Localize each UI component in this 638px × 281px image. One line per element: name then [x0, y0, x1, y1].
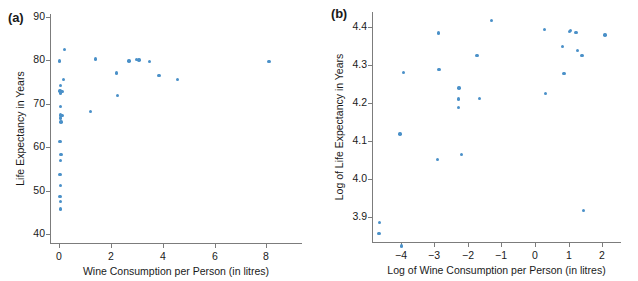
y-axis-tick [368, 141, 372, 142]
data-point [457, 86, 460, 89]
y-axis-tick [46, 234, 50, 235]
x-axis-tick [163, 244, 164, 248]
data-point [94, 57, 97, 60]
data-point [561, 45, 564, 48]
x-axis-tick-label: 4 [148, 250, 178, 262]
y-axis-line [50, 14, 51, 243]
data-point [59, 153, 62, 156]
x-axis-tick [59, 244, 60, 248]
y-axis-title: Life Expectancy in Years [14, 14, 26, 243]
x-axis-tick [468, 243, 469, 247]
x-axis-tick-label: 6 [200, 250, 230, 262]
data-point [58, 59, 61, 62]
data-point [116, 94, 119, 97]
x-axis-tick-label: 2 [587, 249, 617, 261]
data-point [437, 31, 440, 34]
y-axis-tick [368, 27, 372, 28]
x-axis-tick [266, 244, 267, 248]
data-point [148, 60, 151, 63]
y-axis-tick [46, 17, 50, 18]
x-axis-tick-label: 0 [520, 249, 550, 261]
data-point [398, 132, 401, 135]
x-axis-title: Log of Wine Consumption per Person (in l… [372, 264, 621, 276]
x-axis-tick [569, 243, 570, 247]
data-point [115, 71, 118, 74]
x-axis-tick-label: 8 [251, 250, 281, 262]
y-axis-title: Log of Life Expectancy in Years [333, 12, 345, 242]
data-point [402, 71, 405, 74]
y-axis-tick [368, 65, 372, 66]
data-point [59, 105, 62, 108]
x-axis-tick [111, 244, 112, 248]
data-point [580, 54, 583, 57]
x-axis-tick-label: −3 [419, 249, 449, 261]
data-point [569, 29, 572, 32]
data-point [157, 74, 160, 77]
panel-b: (b) 3.94.04.14.24.34.4−4−3−2−1012Log of … [319, 0, 638, 281]
data-point [62, 78, 65, 81]
data-point [59, 200, 62, 203]
data-point [562, 72, 565, 75]
data-point [582, 209, 585, 212]
y-axis-tick [46, 147, 50, 148]
data-point [59, 159, 62, 162]
data-point [267, 60, 270, 63]
data-point [457, 97, 460, 100]
data-point [63, 48, 66, 51]
data-point [58, 195, 61, 198]
y-axis-line [372, 12, 373, 242]
data-point [490, 19, 493, 22]
data-point [437, 68, 440, 71]
data-point [603, 33, 606, 36]
x-axis-tick [434, 243, 435, 247]
panel-a: (a) 40506070809002468Wine Consumption pe… [0, 0, 319, 281]
y-axis-tick [46, 60, 50, 61]
data-point [400, 244, 403, 247]
data-point [378, 221, 381, 224]
data-point [59, 120, 62, 123]
data-point [436, 158, 439, 161]
y-axis-tick [46, 104, 50, 105]
data-point [59, 116, 62, 119]
x-axis-tick [535, 243, 536, 247]
data-point [460, 153, 463, 156]
x-axis-tick-label: −2 [453, 249, 483, 261]
x-axis-tick-label: 0 [44, 250, 74, 262]
data-point [58, 140, 61, 143]
data-point [543, 28, 546, 31]
y-axis-tick [368, 217, 372, 218]
data-point [457, 106, 460, 109]
x-axis-line [50, 243, 302, 244]
data-point [127, 59, 130, 62]
x-axis-tick-label: 1 [554, 249, 584, 261]
data-point [574, 31, 577, 34]
x-axis-line [372, 242, 621, 243]
x-axis-tick-label: −1 [486, 249, 516, 261]
x-axis-tick [501, 243, 502, 247]
y-axis-tick [368, 103, 372, 104]
data-point [576, 49, 579, 52]
x-axis-tick-label: 2 [96, 250, 126, 262]
data-point [377, 232, 380, 235]
data-point [478, 97, 481, 100]
y-axis-tick [368, 179, 372, 180]
data-point [137, 58, 140, 61]
x-axis-tick [215, 244, 216, 248]
y-axis-tick [46, 191, 50, 192]
x-axis-tick-label: −4 [386, 249, 416, 261]
x-axis-tick [602, 243, 603, 247]
data-point [544, 92, 547, 95]
data-point [59, 84, 62, 87]
data-point [58, 173, 61, 176]
data-point [59, 184, 62, 187]
data-point [176, 78, 179, 81]
data-point [475, 54, 478, 57]
data-point [59, 91, 62, 94]
data-point [89, 110, 92, 113]
data-point [59, 207, 62, 210]
x-axis-title: Wine Consumption per Person (in litres) [50, 265, 302, 277]
